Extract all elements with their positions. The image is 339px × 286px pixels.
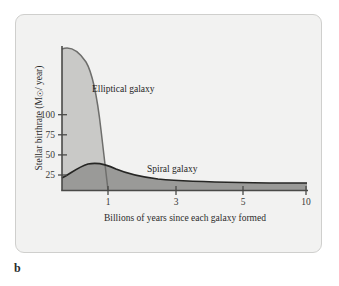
panel-letter-b: b	[14, 262, 21, 274]
figure-panel	[15, 14, 322, 253]
